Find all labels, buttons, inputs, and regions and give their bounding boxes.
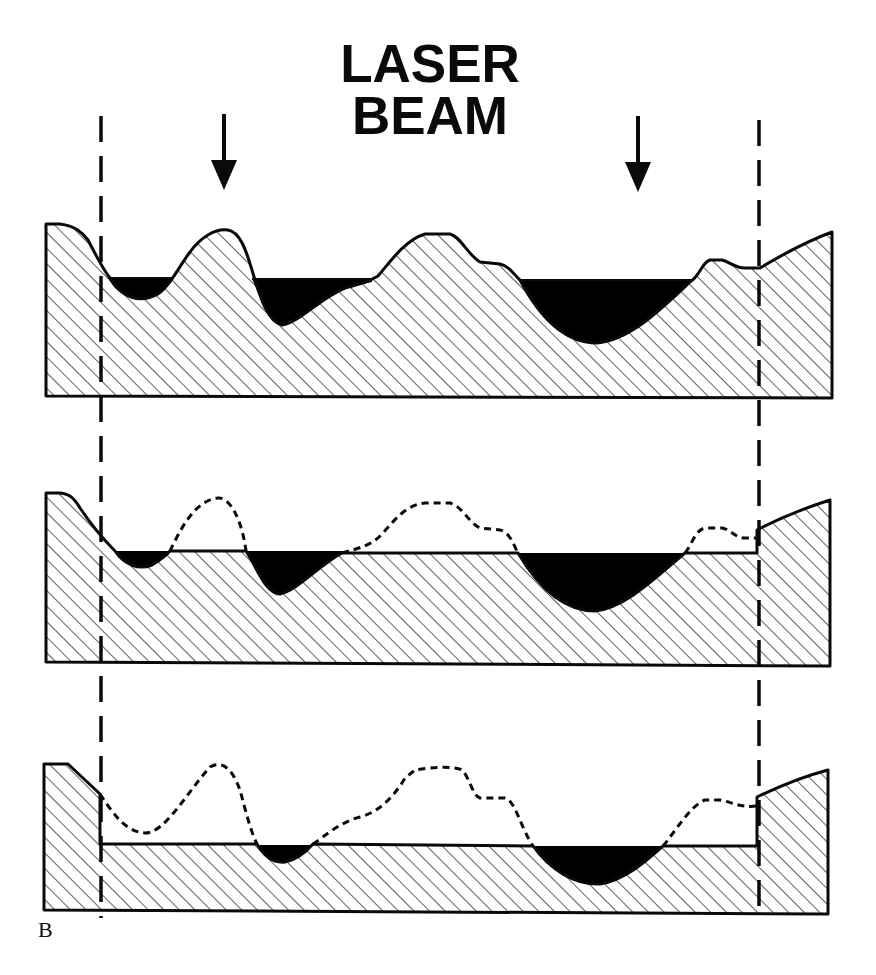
panel-label: B <box>38 917 53 943</box>
laser-arrow-left-icon <box>211 114 237 190</box>
stage-2-substrate <box>46 493 830 666</box>
stage-3-cross-section <box>44 764 828 914</box>
stage-1-substrate <box>46 224 832 398</box>
stage-3-substrate <box>44 764 828 914</box>
laser-arrow-right-icon <box>625 116 651 192</box>
stage-2-original-profile-dashed <box>170 498 757 553</box>
diagram-canvas <box>0 0 876 975</box>
stage-3-original-profile-dashed <box>100 765 757 846</box>
stage-2-cross-section <box>46 493 830 666</box>
stage-1-cross-section <box>46 224 832 398</box>
